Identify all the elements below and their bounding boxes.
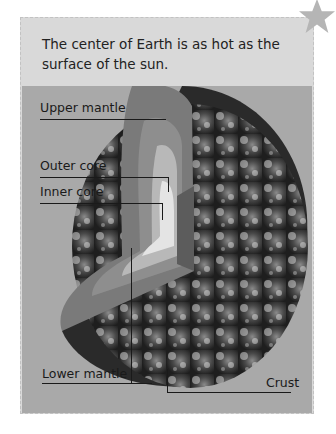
earth-cross-section-figure: Upper mantle Outer core Inner core Lower… bbox=[22, 86, 312, 413]
label-upper-mantle: Upper mantle bbox=[40, 100, 126, 115]
leader-line-outer-core bbox=[40, 177, 168, 178]
leader-line-lower-mantle-rise bbox=[131, 248, 132, 384]
leader-line-outer-core-drop bbox=[168, 177, 169, 192]
star-icon bbox=[298, 0, 336, 34]
leader-line-crust bbox=[167, 392, 291, 393]
earth-globe-illustration bbox=[22, 86, 312, 413]
fact-caption: The center of Earth is as hot as the sur… bbox=[42, 34, 292, 74]
label-crust: Crust bbox=[266, 375, 299, 390]
leader-line-lower-mantle bbox=[42, 383, 152, 384]
leader-line-inner-core bbox=[40, 203, 162, 204]
leader-line-crust-rise bbox=[167, 369, 168, 393]
leader-line-upper-mantle bbox=[40, 119, 166, 120]
label-inner-core: Inner core bbox=[40, 184, 103, 199]
leader-line-inner-core-drop bbox=[162, 203, 163, 220]
label-lower-mantle: Lower mantle bbox=[42, 366, 127, 381]
label-outer-core: Outer core bbox=[40, 158, 107, 173]
